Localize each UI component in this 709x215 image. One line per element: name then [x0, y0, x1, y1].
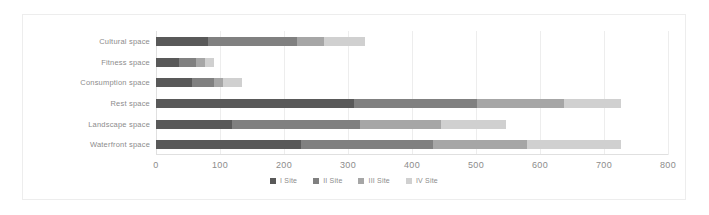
legend-swatch-icon [313, 178, 319, 184]
bar-segment[interactable] [214, 78, 224, 87]
bar-segment[interactable] [156, 78, 192, 87]
bar-segment[interactable] [433, 140, 527, 149]
legend-label: I Site [280, 177, 297, 185]
bar-segment[interactable] [477, 99, 564, 108]
y-axis-label: Rest space [23, 99, 150, 108]
gridline [668, 31, 669, 155]
legend-swatch-icon [406, 178, 412, 184]
bar-segment[interactable] [354, 99, 476, 108]
bar-segment[interactable] [232, 120, 359, 129]
x-axis-tick-labels: 0100200300400500600700800 [156, 160, 668, 174]
bar-segment[interactable] [564, 99, 622, 108]
bar-segment[interactable] [324, 37, 365, 46]
bar-row[interactable] [156, 37, 365, 46]
bar-segment[interactable] [205, 58, 214, 67]
bar-row[interactable] [156, 78, 242, 87]
bar-segment[interactable] [441, 120, 506, 129]
bar-segment[interactable] [156, 58, 179, 67]
legend-item[interactable]: II Site [313, 177, 342, 185]
legend-swatch-icon [270, 178, 276, 184]
legend-label: II Site [323, 177, 342, 185]
x-axis-line [156, 154, 668, 155]
legend-item[interactable]: I Site [270, 177, 297, 185]
bar-segment[interactable] [196, 58, 206, 67]
bar-segment[interactable] [156, 140, 301, 149]
bar-segment[interactable] [223, 78, 242, 87]
bars-layer [156, 31, 668, 155]
bar-row[interactable] [156, 120, 506, 129]
x-axis-tick-label: 600 [532, 160, 548, 170]
legend-item[interactable]: III Site [358, 177, 389, 185]
bar-row[interactable] [156, 58, 214, 67]
bar-segment[interactable] [527, 140, 621, 149]
x-axis-tick-label: 700 [596, 160, 612, 170]
bar-segment[interactable] [360, 120, 442, 129]
x-axis-tick-label: 400 [404, 160, 420, 170]
y-axis-label: Fitness space [23, 58, 150, 67]
x-axis-tick-label: 800 [660, 160, 676, 170]
x-axis-tick-label: 500 [468, 160, 484, 170]
legend-swatch-icon [358, 178, 364, 184]
legend-label: IV Site [416, 177, 438, 185]
chart-screenshot: Cultural spaceFitness spaceConsumption s… [0, 0, 709, 215]
chart-card: Cultural spaceFitness spaceConsumption s… [22, 14, 686, 200]
legend-label: III Site [368, 177, 389, 185]
y-axis-label: Consumption space [23, 78, 150, 87]
x-axis-tick-label: 0 [153, 160, 158, 170]
bar-segment[interactable] [192, 78, 213, 87]
bar-segment[interactable] [301, 140, 433, 149]
bar-segment[interactable] [156, 99, 354, 108]
bar-row[interactable] [156, 99, 621, 108]
bar-segment[interactable] [156, 120, 232, 129]
x-axis-tick-label: 100 [212, 160, 228, 170]
bar-segment[interactable] [179, 58, 196, 67]
bar-row[interactable] [156, 140, 621, 149]
y-axis-label: Waterfront space [23, 140, 150, 149]
x-axis-tick-label: 300 [340, 160, 356, 170]
y-axis-labels: Cultural spaceFitness spaceConsumption s… [23, 31, 150, 155]
bar-segment[interactable] [156, 37, 208, 46]
bar-segment[interactable] [297, 37, 324, 46]
plot-area [156, 31, 668, 155]
legend-item[interactable]: IV Site [406, 177, 438, 185]
y-axis-label: Landscape space [23, 120, 150, 129]
y-axis-label: Cultural space [23, 37, 150, 46]
chart-legend: I SiteII SiteIII SiteIV Site [23, 177, 685, 185]
bar-segment[interactable] [208, 37, 296, 46]
x-axis-tick-label: 200 [276, 160, 292, 170]
